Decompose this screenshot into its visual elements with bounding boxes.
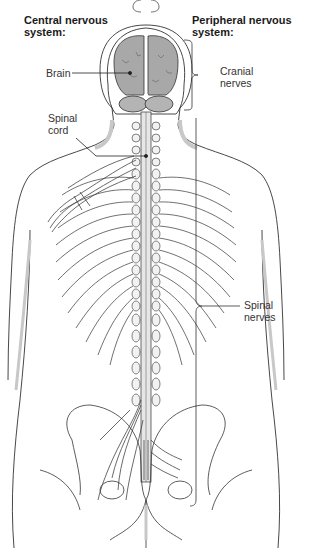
brain-icon bbox=[114, 36, 178, 112]
cranial-nerves-label: Cranial nerves bbox=[220, 65, 253, 89]
spinal-cord-label: Spinal cord bbox=[48, 112, 77, 136]
spinal-column bbox=[141, 112, 151, 482]
brain-label: Brain bbox=[46, 67, 71, 79]
peripheral-nervous-system-heading: Peripheral nervous system: bbox=[192, 14, 292, 38]
spinal-bracket bbox=[190, 118, 240, 506]
brachial-plexus bbox=[48, 156, 136, 232]
spinal-nerves bbox=[133, 0, 159, 12]
central-nervous-system-heading: Central nervous system: bbox=[24, 14, 108, 38]
spinal-nerves-label: Spinal nerves bbox=[244, 299, 276, 323]
